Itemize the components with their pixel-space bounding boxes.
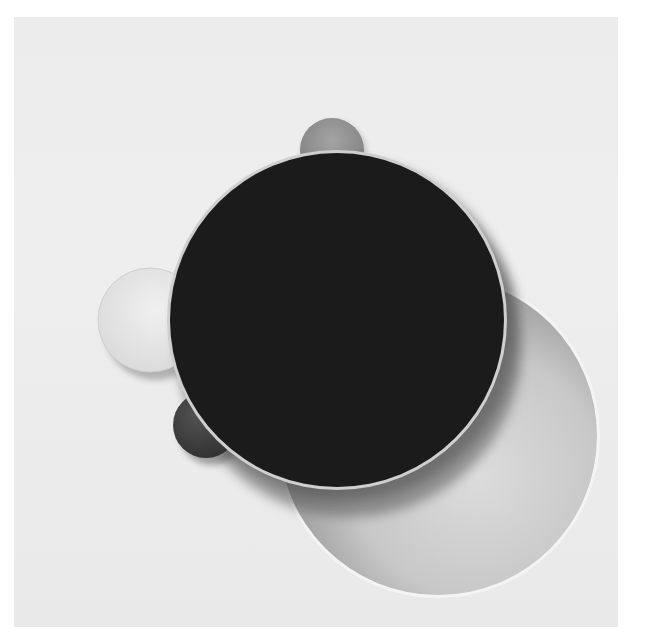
circle-composition <box>0 0 647 642</box>
